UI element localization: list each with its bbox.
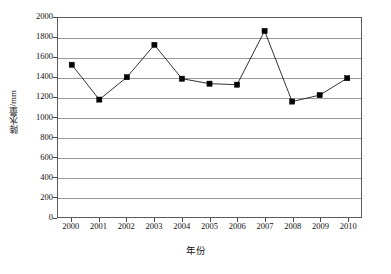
- x-axis-tick-mark: [126, 218, 127, 222]
- y-axis-tick-label: 400: [19, 173, 53, 182]
- data-point-marker: [69, 62, 74, 67]
- x-axis-tick-mark: [154, 218, 155, 222]
- x-axis-tick-mark: [320, 218, 321, 222]
- y-axis-tick-label: 1600: [19, 52, 53, 61]
- x-axis-tick-label: 2010: [328, 221, 368, 231]
- y-axis-tick-mark: [53, 17, 57, 18]
- data-point-marker: [179, 76, 184, 81]
- data-series: [58, 18, 361, 217]
- y-axis-tick-label: 200: [19, 193, 53, 202]
- data-point-marker: [262, 28, 267, 33]
- y-axis-tick-mark: [53, 117, 57, 118]
- y-axis-tick-mark: [53, 77, 57, 78]
- y-axis-tick-label: 1800: [19, 32, 53, 41]
- y-axis-tick-mark: [53, 197, 57, 198]
- x-axis-tick-mark: [265, 218, 266, 222]
- x-axis-tick-mark: [71, 218, 72, 222]
- x-axis-tick-mark: [99, 218, 100, 222]
- y-axis-tick-mark: [53, 157, 57, 158]
- x-axis-tick-mark: [210, 218, 211, 222]
- x-axis-tick-mark: [182, 218, 183, 222]
- y-axis-tick-label: 1200: [19, 92, 53, 101]
- precipitation-line-chart: 降水量/mm 020040060080010001200140016001800…: [0, 0, 391, 274]
- data-point-marker: [124, 75, 129, 80]
- y-axis-tick-label: 0: [19, 213, 53, 222]
- data-point-marker: [97, 97, 102, 102]
- plot-area: [57, 17, 362, 218]
- y-axis-tick-mark: [53, 37, 57, 38]
- data-point-marker: [290, 99, 295, 104]
- y-axis-tick-mark: [53, 218, 57, 219]
- y-axis-tick-mark: [53, 177, 57, 178]
- x-axis-tick-mark: [293, 218, 294, 222]
- x-axis-tick-labels: 2000200120022003200420052006200720082009…: [57, 221, 362, 237]
- y-axis-tick-mark: [53, 97, 57, 98]
- y-axis-tick-mark: [53, 137, 57, 138]
- y-axis-tick-label: 1400: [19, 72, 53, 81]
- y-axis-tick-label: 1000: [19, 113, 53, 122]
- y-axis-tick-label: 600: [19, 153, 53, 162]
- data-point-marker: [152, 42, 157, 47]
- y-axis-tick-label: 800: [19, 133, 53, 142]
- data-point-marker: [317, 93, 322, 98]
- x-axis-title: 年份: [0, 245, 391, 257]
- data-point-marker: [234, 82, 239, 87]
- y-axis-tick-label: 2000: [19, 12, 53, 21]
- series-line: [72, 31, 347, 102]
- data-point-marker: [345, 76, 350, 81]
- y-axis-tick-labels: 0200400600800100012001400160018002000: [15, 17, 53, 218]
- data-point-marker: [207, 81, 212, 86]
- y-axis-tick-mark: [53, 57, 57, 58]
- x-axis-tick-mark: [348, 218, 349, 222]
- x-axis-tick-mark: [237, 218, 238, 222]
